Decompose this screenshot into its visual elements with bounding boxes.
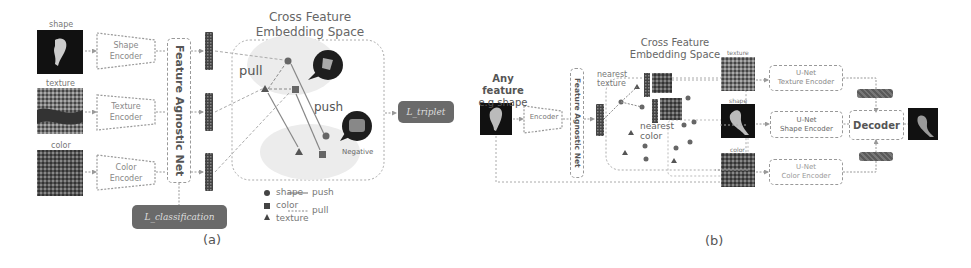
legend-texture: texture [276, 213, 309, 223]
legend-shape: shape [276, 187, 303, 197]
classification-loss-label: L_classification [145, 212, 215, 222]
triplet-loss-label: L_triplet [407, 107, 446, 117]
illegible-stray-glyph [378, 40, 388, 52]
nearest-color-label: nearest color [640, 121, 674, 141]
embedding-title-b: Cross Feature Embedding Space [615, 37, 735, 61]
anchor-color-point [292, 86, 299, 93]
shape-encoder-label: ShapeEncoder [100, 40, 152, 62]
decoder-label: Decoder [853, 120, 900, 131]
feature-agnostic-net-b-label: Feature Agnostic Net [573, 78, 582, 168]
triplet-loss-box: L_triplet [398, 101, 454, 123]
illegible-norm-label-bottom [859, 152, 893, 161]
retrieved-shape-caption: shape [729, 97, 747, 104]
shape-feature-vector [205, 32, 213, 70]
shape-input-caption: shape [49, 20, 73, 29]
feature-agnostic-net-a: Feature Agnostic Net [167, 38, 191, 183]
legend-pull: pull [312, 205, 328, 215]
decoder-box: Decoder [849, 110, 904, 140]
color-input-image [37, 150, 83, 196]
feature-agnostic-net-b: Feature Agnostic Net [570, 68, 584, 178]
texture-feature-vector [205, 93, 213, 131]
retrieved-texture-caption: texture [727, 49, 749, 56]
panel-b-label: (b) [705, 233, 723, 248]
negative-label: Negative [342, 148, 373, 156]
unet-color-encoder: U-Net Color Encoder [769, 159, 843, 185]
color-input-caption: color [51, 141, 71, 150]
embedding-title-a: Cross Feature Embedding Space [250, 10, 370, 40]
legend-color: color [276, 200, 298, 210]
push-label: push [314, 100, 343, 114]
feature-agnostic-net-a-label: Feature Agnostic Net [173, 45, 186, 176]
texture-encoder-label: TextureEncoder [100, 101, 152, 123]
texture-input-image [37, 88, 83, 134]
texture-input-caption: texture [46, 79, 75, 88]
negative-sample-bubble [340, 111, 372, 141]
output-image [908, 108, 938, 140]
encoder-b-label: Encoder [525, 113, 563, 121]
unet-texture-encoder: U-Net Texture Encoder [769, 65, 843, 91]
retrieved-shape-image [721, 104, 755, 138]
unet-shape-encoder: U-Net Shape Encoder [770, 111, 843, 138]
shape-input-image [37, 30, 83, 74]
panel-a-label: (a) [203, 232, 221, 247]
color-encoder-label: ColorEncoder [100, 162, 152, 184]
any-feature-label: Any feature e.g shape [474, 73, 532, 109]
color-feature-vector [205, 153, 213, 191]
retrieved-texture-image [721, 57, 755, 91]
legend-push: push [312, 187, 334, 197]
pull-label: pull [239, 63, 263, 78]
retrieved-color-caption: color [730, 146, 745, 153]
nearest-texture-label: nearest texture [597, 70, 627, 88]
feature-vector-b [596, 104, 604, 136]
classification-loss-box: L_classification [132, 205, 227, 229]
illegible-norm-label-top [857, 89, 893, 98]
